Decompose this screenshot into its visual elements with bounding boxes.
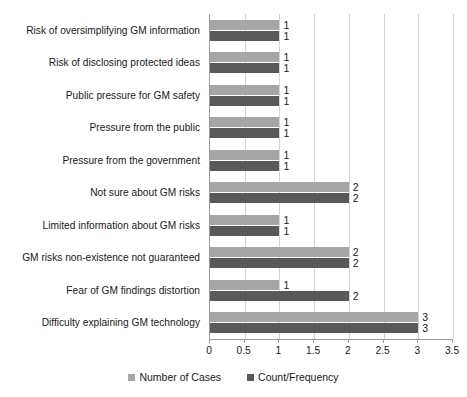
bar-0[interactable]	[210, 85, 279, 95]
legend-swatch-icon	[247, 374, 254, 381]
category-axis: Risk of oversimplifying GM informationRi…	[0, 14, 205, 339]
x-axis-line	[209, 339, 452, 340]
bar-1[interactable]	[210, 193, 349, 203]
bar-value-label: 1	[279, 225, 289, 237]
category-label: GM risks non-existence not guaranteed	[0, 242, 205, 275]
bar-0[interactable]	[210, 280, 279, 290]
bar-wrapper: 1	[210, 117, 452, 127]
bar-1[interactable]	[210, 323, 418, 333]
x-tick-label: 0.5	[237, 345, 251, 356]
chart-legend: Number of CasesCount/Frequency	[0, 371, 467, 383]
bar-wrapper: 1	[210, 280, 452, 290]
bar-wrapper: 3	[210, 312, 452, 322]
x-tick-label: 2	[345, 345, 351, 356]
x-tick-label: 0	[206, 345, 212, 356]
bar-1[interactable]	[210, 96, 279, 106]
category-label: Risk of disclosing protected ideas	[0, 47, 205, 80]
bar-wrapper: 1	[210, 31, 452, 41]
bar-wrapper: 2	[210, 182, 452, 192]
x-tick	[417, 339, 418, 343]
category-label: Fear of GM findings distortion	[0, 274, 205, 307]
legend-item[interactable]: Count/Frequency	[247, 371, 339, 383]
x-tick-label: 1	[276, 345, 282, 356]
bar-value-label: 1	[279, 62, 289, 74]
x-tick	[383, 339, 384, 343]
x-tick-label: 3.5	[445, 345, 459, 356]
bar-value-label: 1	[279, 127, 289, 139]
x-tick	[313, 339, 314, 343]
x-tick-label: 2.5	[375, 345, 389, 356]
bar-wrapper: 1	[210, 52, 452, 62]
bar-1[interactable]	[210, 31, 279, 41]
x-tick-label: 1.5	[306, 345, 320, 356]
bar-0[interactable]	[210, 20, 279, 30]
legend-label: Count/Frequency	[258, 371, 339, 383]
legend-swatch-icon	[128, 374, 135, 381]
bar-value-label: 2	[349, 290, 359, 302]
bar-chart: Risk of oversimplifying GM informationRi…	[0, 0, 467, 397]
bar-wrapper: 3	[210, 323, 452, 333]
bar-group: 12	[210, 274, 452, 307]
legend-label: Number of Cases	[139, 371, 221, 383]
x-tick	[278, 339, 279, 343]
plot-area: 11111111112211221233	[209, 14, 452, 339]
category-label: Pressure from the public	[0, 112, 205, 145]
x-tick	[452, 339, 453, 343]
bar-wrapper: 2	[210, 247, 452, 257]
x-tick	[209, 339, 210, 343]
bar-value-label: 3	[418, 322, 428, 334]
bar-group: 22	[210, 177, 452, 210]
bar-0[interactable]	[210, 117, 279, 127]
bar-group: 11	[210, 47, 452, 80]
legend-item[interactable]: Number of Cases	[128, 371, 221, 383]
bar-wrapper: 1	[210, 85, 452, 95]
bar-0[interactable]	[210, 52, 279, 62]
bar-value-label: 2	[349, 257, 359, 269]
bar-wrapper: 2	[210, 258, 452, 268]
bar-group: 33	[210, 307, 452, 340]
bar-wrapper: 1	[210, 215, 452, 225]
x-tick	[348, 339, 349, 343]
bar-0[interactable]	[210, 215, 279, 225]
bar-value-label: 1	[279, 279, 289, 291]
x-tick	[244, 339, 245, 343]
bar-1[interactable]	[210, 128, 279, 138]
bar-0[interactable]	[210, 150, 279, 160]
gridline	[453, 14, 454, 339]
bar-value-label: 1	[279, 95, 289, 107]
bar-1[interactable]	[210, 226, 279, 236]
category-label: Difficulty explaining GM technology	[0, 307, 205, 340]
bar-1[interactable]	[210, 258, 349, 268]
category-label: Pressure from the government	[0, 144, 205, 177]
category-label: Risk of oversimplifying GM information	[0, 14, 205, 47]
x-tick-label: 3	[414, 345, 420, 356]
bar-group: 11	[210, 144, 452, 177]
bar-value-label: 2	[349, 192, 359, 204]
bar-1[interactable]	[210, 63, 279, 73]
bar-value-label: 1	[279, 160, 289, 172]
bar-group: 11	[210, 112, 452, 145]
bar-1[interactable]	[210, 161, 279, 171]
category-label: Public pressure for GM safety	[0, 79, 205, 112]
bar-0[interactable]	[210, 312, 418, 322]
category-label: Not sure about GM risks	[0, 177, 205, 210]
category-label: Limited information about GM risks	[0, 209, 205, 242]
bar-wrapper: 2	[210, 193, 452, 203]
bar-wrapper: 1	[210, 150, 452, 160]
bar-group: 11	[210, 14, 452, 47]
bar-0[interactable]	[210, 247, 349, 257]
bar-0[interactable]	[210, 182, 349, 192]
bar-wrapper: 1	[210, 128, 452, 138]
bar-value-label: 1	[279, 30, 289, 42]
bar-rows: 11111111112211221233	[210, 14, 452, 339]
bar-wrapper: 2	[210, 291, 452, 301]
bar-1[interactable]	[210, 291, 349, 301]
bar-group: 11	[210, 209, 452, 242]
bar-group: 22	[210, 242, 452, 275]
bar-wrapper: 1	[210, 63, 452, 73]
bar-wrapper: 1	[210, 161, 452, 171]
bar-wrapper: 1	[210, 226, 452, 236]
bar-wrapper: 1	[210, 20, 452, 30]
bar-wrapper: 1	[210, 96, 452, 106]
bar-group: 11	[210, 79, 452, 112]
